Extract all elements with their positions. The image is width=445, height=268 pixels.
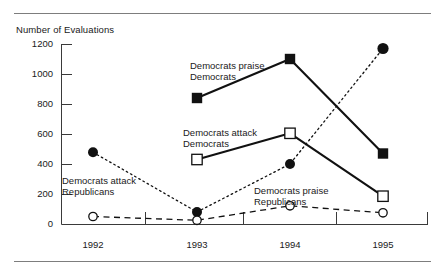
annotation-democrats-attack-democrats: Democrats attack Democrats [183, 128, 257, 149]
annotation-democrats-attack-republicans: Democrats attack Republicans [62, 176, 136, 197]
data-point [285, 54, 295, 64]
y-tick-label: 1000 [13, 68, 53, 79]
data-point [379, 209, 387, 217]
y-tick-label: 400 [13, 158, 53, 169]
x-tick-label-1994: 1994 [260, 239, 320, 250]
y-tick-label: 600 [13, 128, 53, 139]
y-tick-label: 0 [13, 218, 53, 229]
data-point [193, 216, 201, 224]
y-tick-marks [62, 45, 73, 195]
data-point [378, 148, 388, 158]
y-tick-label: 800 [13, 98, 53, 109]
data-point [192, 93, 202, 103]
annotation-democrats-praise-democrats: Democrats praise Democrats [190, 61, 264, 82]
annotation-democrats-praise-republicans: Democrats praise Republicans [254, 186, 328, 207]
data-point [285, 159, 295, 169]
series-democrats-praise-republicans [89, 202, 387, 225]
y-tick-label: 1200 [13, 38, 53, 49]
figure: Number of Evaluations [0, 0, 445, 268]
data-point [378, 191, 388, 201]
data-point [377, 43, 388, 54]
x-tick-label-1993: 1993 [167, 239, 227, 250]
x-tick-label-1992: 1992 [63, 239, 123, 250]
data-point [88, 147, 98, 157]
y-tick-label: 200 [13, 188, 53, 199]
data-point [285, 128, 295, 138]
data-point [89, 212, 97, 220]
data-point [192, 154, 202, 164]
x-tick-label-1995: 1995 [353, 239, 413, 250]
